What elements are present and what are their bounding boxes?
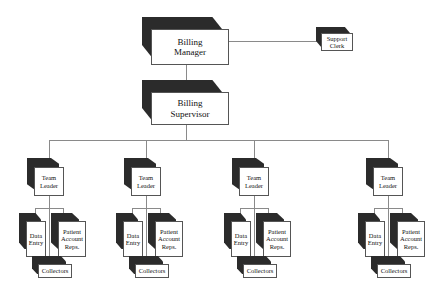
connector-leader-branch [35, 208, 64, 209]
connector-supervisor-down [186, 124, 187, 140]
node-label: Account [400, 235, 422, 242]
node-label: Collectors [381, 267, 408, 274]
node-label: Entry [126, 239, 140, 246]
node-label: Billing [174, 37, 206, 47]
node-label: Reps. [400, 243, 422, 250]
node-label: Supervisor [171, 109, 210, 119]
node-label: Leader [379, 182, 397, 189]
connector-leader-down [49, 196, 50, 258]
node-label: Data [368, 232, 382, 239]
connector-leader-down [388, 196, 389, 258]
node-label: Reps. [158, 243, 180, 250]
node-label: Patient [266, 228, 288, 235]
node-label: Leader [40, 182, 58, 189]
node-label: Support [327, 35, 348, 42]
node-label: Data [126, 232, 140, 239]
node-label: Account [266, 235, 288, 242]
connector-leader-down [146, 196, 147, 258]
node-label: Patient [61, 228, 83, 235]
node-label: Manager [174, 47, 206, 57]
node-label: Team [137, 174, 155, 181]
node-label: Collectors [139, 267, 166, 274]
node-label: Entry [368, 239, 382, 246]
node-label: Leader [245, 182, 263, 189]
node-label: Team [40, 174, 58, 181]
node-label: Collectors [247, 267, 274, 274]
node-label: Account [158, 235, 180, 242]
node-label: Billing [171, 98, 210, 108]
connector-teams-horizontal [49, 140, 389, 141]
node-label: Leader [137, 182, 155, 189]
connector-leader-branch [240, 208, 269, 209]
node-label: Entry [29, 239, 43, 246]
connector-leader-down [254, 196, 255, 258]
node-label: Clerk [327, 42, 348, 49]
node-label: Data [29, 232, 43, 239]
node-label: Patient [158, 228, 180, 235]
node-label: Team [379, 174, 397, 181]
connector-manager-clerk [228, 41, 321, 42]
connector-leader-branch [132, 208, 161, 209]
node-label: Reps. [266, 243, 288, 250]
node-label: Entry [234, 239, 248, 246]
node-label: Data [234, 232, 248, 239]
node-label: Team [245, 174, 263, 181]
node-label: Reps. [61, 243, 83, 250]
node-label: Collectors [42, 267, 69, 274]
node-label: Patient [400, 228, 422, 235]
connector-leader-branch [374, 208, 403, 209]
node-label: Account [61, 235, 83, 242]
